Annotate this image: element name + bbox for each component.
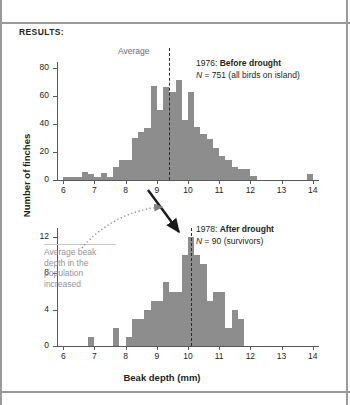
x-axis-tick-label: 12 — [240, 185, 260, 195]
top-divider-rule — [2, 22, 350, 24]
average-dashed-line — [169, 48, 170, 180]
histogram-bar — [88, 337, 94, 346]
x-axis-tick-label: 13 — [272, 185, 292, 195]
x-axis-tick — [219, 346, 220, 350]
x-axis-tick — [94, 346, 95, 350]
x-axis-tick — [250, 346, 251, 350]
histogram-bar — [238, 319, 244, 346]
x-axis-tick — [157, 180, 158, 184]
y-axis-tick — [53, 96, 57, 97]
average-dashed-line — [191, 228, 192, 346]
x-axis-title: Beak depth (mm) — [62, 372, 262, 383]
average-caption: Average — [118, 46, 150, 56]
histogram-bar — [113, 328, 119, 346]
x-axis-tick-label: 14 — [303, 185, 323, 195]
x-axis-tick — [126, 180, 127, 184]
bottom-divider-rule — [2, 391, 350, 393]
x-axis-tick — [63, 346, 64, 350]
x-axis-tick — [313, 346, 314, 350]
y-axis-tick-label: 0 — [29, 174, 49, 184]
y-axis-tick — [53, 310, 57, 311]
annotation-note: Average beak depth in the population inc… — [44, 244, 116, 289]
y-axis-tick-label: 4 — [29, 304, 49, 314]
x-axis-tick-label: 10 — [178, 351, 198, 361]
x-axis-tick — [94, 180, 95, 184]
x-axis-tick — [313, 180, 314, 184]
x-axis-tick-label: 11 — [209, 351, 229, 361]
results-label: RESULTS: — [19, 27, 64, 37]
y-axis-tick-label: 80 — [29, 62, 49, 72]
x-axis-tick-label: 13 — [272, 351, 292, 361]
y-axis-tick-label: 60 — [29, 90, 49, 100]
x-axis-tick — [282, 180, 283, 184]
y-axis-tick — [53, 68, 57, 69]
y-axis-tick-label: 20 — [29, 146, 49, 156]
plot-area-1976: 02040608067891011121314 — [57, 62, 319, 180]
x-axis-tick-label: 9 — [147, 351, 167, 361]
y-axis-tick — [53, 237, 57, 238]
x-axis-tick-label: 12 — [240, 351, 260, 361]
x-axis-tick — [188, 180, 189, 184]
x-axis-tick — [63, 180, 64, 184]
chart-panel-1976: Average 1976: Before drought N = 751 (al… — [2, 48, 350, 198]
x-axis-tick — [126, 346, 127, 350]
x-axis-tick-label: 14 — [303, 351, 323, 361]
y-axis-tick-label: 12 — [29, 231, 49, 241]
x-axis-tick — [188, 346, 189, 350]
y-axis-tick — [53, 152, 57, 153]
x-axis-tick-label: 11 — [209, 185, 229, 195]
x-axis-tick-label: 8 — [116, 185, 136, 195]
x-axis-tick — [219, 180, 220, 184]
x-axis-tick-label: 7 — [84, 185, 104, 195]
y-axis-tick-label: 40 — [29, 118, 49, 128]
y-axis-line — [57, 62, 58, 180]
y-axis-tick-label: 0 — [29, 340, 49, 350]
y-axis-tick — [53, 346, 57, 347]
x-axis-tick-label: 8 — [116, 351, 136, 361]
x-axis-tick-label: 7 — [84, 351, 104, 361]
y-axis-tick — [53, 124, 57, 125]
x-axis-tick-label: 10 — [178, 185, 198, 195]
x-axis-tick — [250, 180, 251, 184]
y-axis-tick — [53, 180, 57, 181]
x-axis-tick-label: 9 — [147, 185, 167, 195]
x-axis-tick — [157, 346, 158, 350]
x-axis-tick-label: 6 — [53, 185, 73, 195]
x-axis-tick — [282, 346, 283, 350]
chart-panel-1978: 1978: After drought N = 90 (survivors) 0… — [2, 218, 350, 368]
x-axis-tick-label: 6 — [53, 351, 73, 361]
